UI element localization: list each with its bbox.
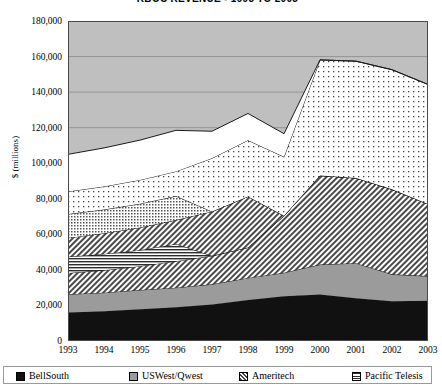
x-tick-label: 1993 [48,344,88,356]
y-tick-label: 40,000 [6,265,62,275]
x-tick-label: 1997 [192,344,232,356]
y-tick-label: 100,000 [6,158,62,168]
y-axis-ticks: 020,00040,00060,00080,000100,000120,0001… [0,0,62,386]
x-axis-ticks: 1993199419951996199719981999200020012002… [0,344,435,362]
chart-legend: BellSouthUSWest/QwestAmeritechPacific Te… [3,366,432,384]
x-tick-label: 2002 [372,344,412,356]
x-tick-label: 1998 [228,344,268,356]
legend-swatch-diagonal-hatch [239,372,248,381]
x-tick-label: 1999 [264,344,304,356]
y-tick-label: 60,000 [6,229,62,239]
legend-label: BellSouth [29,371,69,381]
legend-item[interactable]: BellSouth [16,369,69,383]
legend-label: Ameritech [252,371,294,381]
y-tick-label: 160,000 [6,52,62,62]
legend-label: USWest/Qwest [142,371,203,381]
y-tick-label: 180,000 [6,16,62,26]
legend-item[interactable]: Ameritech [239,369,294,383]
x-tick-label: 1996 [156,344,196,356]
plot-area [68,21,428,341]
x-tick-label: 2000 [300,344,340,356]
x-tick-label: 1994 [84,344,124,356]
x-tick-label: 2003 [408,344,442,356]
y-tick-label: 80,000 [6,194,62,204]
legend-swatch-solid-gray [129,372,138,381]
legend-label: Pacific Telesis [365,371,423,381]
x-tick-label: 1995 [120,344,160,356]
legend-swatch-horizontal-lines [352,372,361,381]
legend-swatch-solid-black [16,372,25,381]
chart-title: RBOC REVENUE - 1993 TO 2003 [0,0,435,4]
legend-item[interactable]: Pacific Telesis [352,369,423,383]
x-tick-label: 2001 [336,344,376,356]
y-tick-label: 120,000 [6,123,62,133]
legend-item[interactable]: USWest/Qwest [129,369,203,383]
y-tick-label: 140,000 [6,87,62,97]
y-tick-label: 20,000 [6,300,62,310]
